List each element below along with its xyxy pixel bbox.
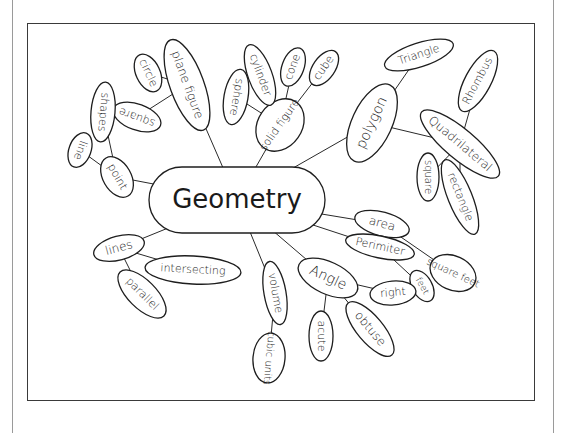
node-point: point <box>94 151 140 203</box>
node-solid-figure: solid figure <box>245 88 316 163</box>
node-lines: lines <box>91 230 147 267</box>
node-right: right <box>369 279 417 307</box>
node-label: acute <box>315 321 328 352</box>
node-cube: cube <box>304 45 345 90</box>
node-circle: circle <box>129 50 168 96</box>
node-polygon: polygon <box>336 76 408 169</box>
node-label: square <box>423 160 434 194</box>
node-square-2: square <box>417 153 439 201</box>
node-shapes: shapes <box>88 81 117 143</box>
center-node-label: Geometry <box>172 184 302 214</box>
node-acute: acute <box>309 311 333 361</box>
node-angle: Angle <box>292 250 364 306</box>
node-rhombus: Rhombus <box>451 45 506 117</box>
node-volume: volume <box>259 260 292 327</box>
node-square-1: square <box>109 96 165 138</box>
node-cone: cone <box>276 44 310 89</box>
node-intersecting: intersecting <box>144 254 241 287</box>
node-line: line <box>64 129 97 170</box>
geometry-mind-map: Geometry plane figurecirclesquareshapesp… <box>0 0 562 433</box>
node-label: right <box>380 285 407 300</box>
node-cubic-units: cubic units <box>251 330 288 387</box>
node-triangle: Triangle <box>381 32 457 77</box>
node-plane-figure: plane figure <box>155 34 220 136</box>
center-node-geometry: Geometry <box>149 167 325 233</box>
